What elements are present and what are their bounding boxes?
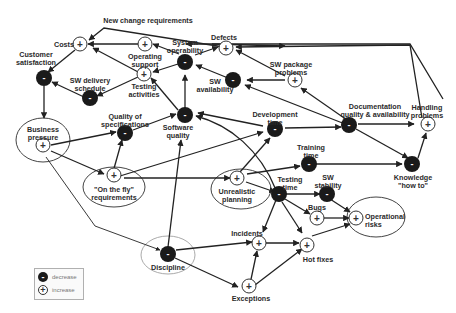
label-handling-problems: Handling problems: [411, 104, 443, 120]
node-system-operability: -: [177, 54, 193, 70]
edges: [44, 28, 443, 287]
svg-text:-: -: [124, 128, 127, 138]
svg-text:+: +: [234, 173, 240, 184]
legend-label: decrease: [52, 274, 77, 280]
label-exceptions: Exceptions: [232, 295, 270, 303]
legend-item-decrease: - decrease: [38, 271, 77, 283]
node-documentation-quality: -: [341, 117, 357, 133]
label-defects: Defects: [211, 34, 237, 42]
svg-text:-: -: [411, 159, 414, 169]
label-testing-activities: Testing activities: [129, 83, 160, 99]
label-bugs: Bugs: [308, 204, 326, 212]
label-sw-delivery-schedule: SW delivery schedule: [70, 77, 111, 93]
node-costs: +: [73, 37, 87, 51]
label-sw-package-problems: SW package problems: [270, 61, 312, 77]
svg-text:-: -: [326, 189, 329, 199]
node-bugs: +: [310, 211, 324, 225]
svg-text:+: +: [304, 240, 310, 251]
label-testing-time: Testing time: [277, 176, 302, 192]
svg-text:+: +: [77, 39, 83, 50]
label-operational-risks: Operational risks: [365, 213, 405, 229]
label-customer-satisfaction: Customer satisfaction: [16, 51, 56, 67]
svg-text:+: +: [425, 119, 431, 130]
node-operating-support: +: [138, 37, 152, 51]
label-operating-support: Operating support: [128, 53, 162, 69]
node-hot-fixes: +: [300, 238, 314, 252]
label-sw-availability: SW availability: [197, 78, 234, 94]
svg-text:-: -: [348, 120, 351, 130]
node-discipline: -: [160, 246, 176, 262]
label-business-pressure: Business pressure: [27, 126, 59, 142]
label-new-change-requirements: New change requirements: [103, 17, 192, 25]
svg-text:-: -: [184, 110, 187, 120]
node-operational-risks: +: [349, 211, 363, 225]
legend: - decrease + increase: [34, 268, 84, 300]
svg-text:-: -: [89, 93, 92, 103]
label-knowledge-how-to: Knowledge "how to": [394, 174, 432, 190]
decrease-icon: -: [38, 272, 48, 282]
increase-icon: +: [38, 285, 48, 295]
label-on-the-fly-requirements: "On the fly" requirements: [91, 186, 137, 202]
node-unrealistic-planning: +: [230, 171, 244, 185]
svg-text:-: -: [308, 159, 311, 169]
label-unrealistic-planning: Unrealistic planning: [219, 188, 256, 204]
node-knowledge-how-to: -: [404, 156, 420, 172]
svg-text:+: +: [142, 39, 148, 50]
svg-text:+: +: [111, 170, 117, 181]
node-on-the-fly: +: [107, 168, 121, 182]
label-sw-stability: SW stability: [314, 174, 341, 190]
svg-text:+: +: [223, 43, 229, 54]
label-documentation-quality: Documentation quality & availability: [340, 103, 409, 119]
node-exceptions: +: [242, 279, 256, 293]
label-costs: Costs: [54, 41, 74, 49]
label-software-quality: Software quality: [163, 124, 193, 140]
svg-text:+: +: [246, 281, 252, 292]
legend-item-increase: + increase: [38, 284, 75, 296]
legend-label: increase: [52, 287, 75, 293]
svg-text:+: +: [353, 213, 359, 224]
label-discipline: Discipline: [151, 264, 185, 272]
node-defects: +: [219, 41, 233, 55]
svg-text:+: +: [256, 238, 262, 249]
node-incidents: +: [252, 236, 266, 250]
svg-text:+: +: [141, 69, 147, 80]
svg-text:-: -: [184, 57, 187, 67]
label-training-time: Training time: [297, 144, 325, 160]
node-customer-satisfaction: -: [36, 70, 52, 86]
node-software-quality: -: [177, 107, 193, 123]
label-incidents: Incidents: [231, 230, 263, 238]
label-system-operability: System operability: [167, 39, 203, 55]
label-development-time: Development time: [252, 111, 297, 127]
node-testing-activities: +: [137, 67, 151, 81]
label-quality-of-specifications: Quality of specifications: [101, 113, 149, 129]
svg-text:-: -: [43, 73, 46, 83]
svg-text:-: -: [167, 249, 170, 259]
label-hot-fixes: Hot fixes: [303, 256, 333, 264]
svg-text:+: +: [314, 213, 320, 224]
